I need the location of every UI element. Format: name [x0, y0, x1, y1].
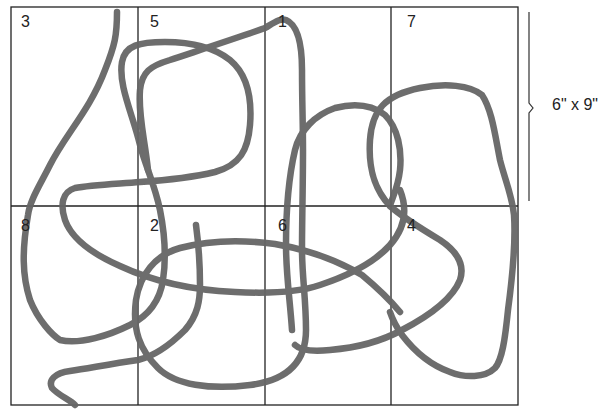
cell-label-3: 3 [21, 14, 30, 30]
cell-label-6: 6 [278, 218, 287, 234]
cell-label-8: 8 [21, 218, 30, 234]
cell-label-5: 5 [150, 14, 159, 30]
cell-label-4: 4 [407, 218, 416, 234]
scribble-line [24, 12, 515, 405]
dimension-label: 6" x 9" [552, 96, 598, 114]
cell-label-1: 1 [278, 14, 287, 30]
cell-label-2: 2 [150, 218, 159, 234]
cell-label-7: 7 [407, 14, 416, 30]
grid-lines [11, 7, 518, 405]
scribble-grid-diagram [0, 0, 607, 419]
dimension-bracket [529, 12, 533, 201]
